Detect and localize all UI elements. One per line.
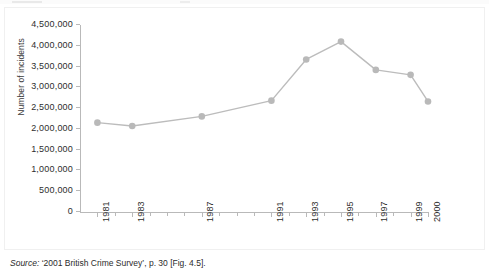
data-point [129, 123, 136, 130]
data-point [373, 67, 380, 74]
data-point [199, 113, 206, 120]
data-point [94, 119, 101, 126]
data-point [303, 56, 310, 63]
data-point [338, 38, 345, 45]
source-label: Source: [10, 258, 39, 268]
source-caption: Source: ‘2001 British Crime Survey’, p. … [10, 258, 206, 268]
data-point [425, 98, 432, 105]
series-line [97, 42, 428, 126]
series-markers [94, 38, 431, 129]
plot-area: Number of incidents 0500,0001,000,0001,5… [0, 0, 489, 250]
data-point [407, 72, 414, 79]
source-text: ‘2001 British Crime Survey’, p. 30 [Fig.… [42, 258, 206, 268]
data-series-svg [0, 0, 489, 250]
data-point [268, 97, 275, 104]
figure-container: Number of incidents 0500,0001,000,0001,5… [0, 0, 489, 279]
